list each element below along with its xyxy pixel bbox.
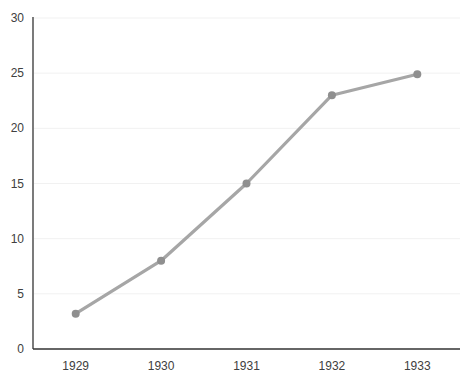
- x-tick-label: 1933: [404, 359, 431, 373]
- x-tick-label: 1929: [62, 359, 89, 373]
- data-point-marker: [157, 257, 165, 265]
- line-chart: 05101520253019291930193119321933: [0, 0, 466, 381]
- y-tick-label: 15: [11, 177, 25, 191]
- y-tick-label: 10: [11, 232, 25, 246]
- x-tick-label: 1931: [233, 359, 260, 373]
- data-point-marker: [72, 310, 80, 318]
- data-series-line: [76, 74, 418, 313]
- y-tick-label: 0: [17, 342, 24, 356]
- data-point-marker: [413, 70, 421, 78]
- y-tick-label: 5: [17, 287, 24, 301]
- x-tick-label: 1930: [148, 359, 175, 373]
- data-point-marker: [243, 180, 251, 188]
- data-point-marker: [328, 91, 336, 99]
- y-tick-label: 30: [11, 11, 25, 25]
- y-tick-label: 25: [11, 66, 25, 80]
- x-tick-label: 1932: [319, 359, 346, 373]
- chart-plot-area: 05101520253019291930193119321933: [0, 0, 466, 381]
- y-tick-label: 20: [11, 121, 25, 135]
